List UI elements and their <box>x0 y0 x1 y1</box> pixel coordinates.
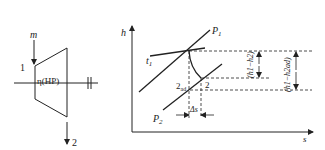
expansion-curve <box>189 51 201 78</box>
dim-isentropic-label: (h1−h2ad) <box>283 57 292 92</box>
turbine-schematic: m 1 η(HP) 2 <box>14 29 98 148</box>
turbine-hs-diagram: m 1 η(HP) 2 h s P1 P2 t1 <box>0 0 325 150</box>
outlet-label: 2 <box>72 137 77 148</box>
state-2ad-label: 2ad <box>176 81 186 92</box>
isotherm-t1-label: t1 <box>146 55 152 68</box>
isobar-p1-label: P1 <box>211 25 222 38</box>
delta-s-label: Δs <box>189 105 198 114</box>
x-axis-label: s <box>303 134 307 144</box>
dim-actual-label: (h1−h2) <box>246 51 255 78</box>
isobar-p2 <box>163 64 222 110</box>
hs-chart: h s P1 P2 t1 2ad 2 Δs (h1−h2) (h1− <box>121 25 313 144</box>
isotherm-t1 <box>150 48 205 56</box>
efficiency-label: η(HP) <box>37 76 59 86</box>
y-axis-label: h <box>121 27 126 38</box>
state-2-label: 2 <box>205 80 210 90</box>
mass-flow-label: m <box>30 29 37 40</box>
isobar-p2-label: P2 <box>152 113 163 126</box>
inlet-label: 1 <box>20 62 25 73</box>
